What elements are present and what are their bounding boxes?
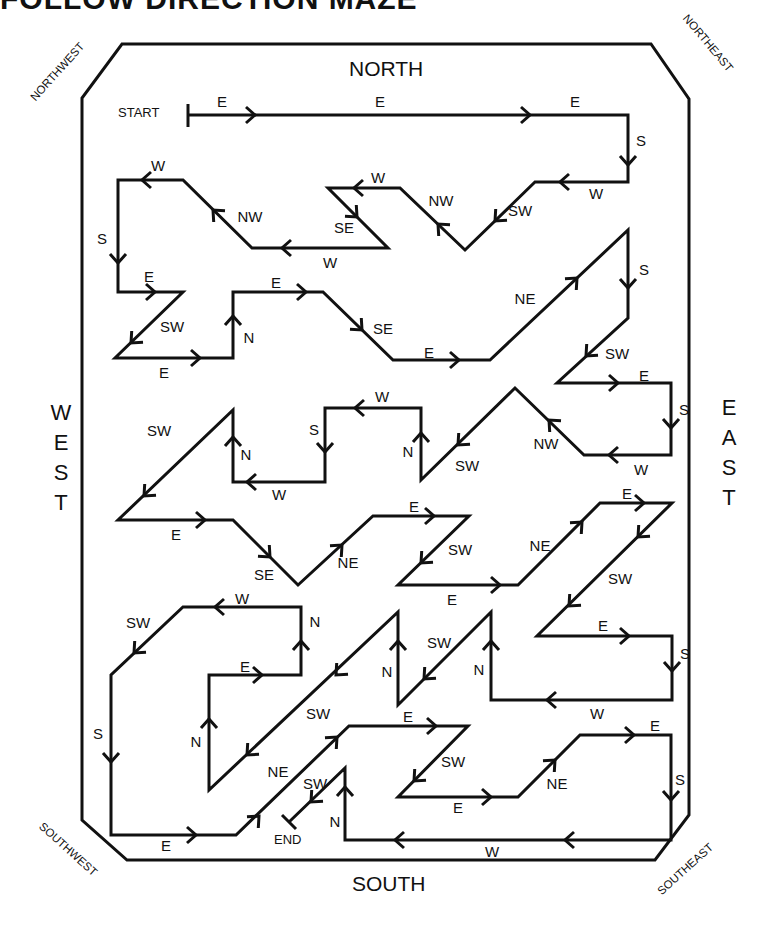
direction-label: NE <box>268 763 289 780</box>
direction-label: N <box>382 663 393 680</box>
direction-label: E <box>375 93 385 110</box>
direction-label: SW <box>160 318 185 335</box>
direction-label: SW <box>126 614 151 631</box>
direction-label: S <box>639 261 649 278</box>
direction-label: N <box>403 443 414 460</box>
compass-west-letter: S <box>48 458 74 488</box>
direction-label: S <box>675 771 685 788</box>
direction-label: N <box>191 733 202 750</box>
direction-label: E <box>453 799 463 816</box>
compass-north: NORTH <box>349 57 423 81</box>
direction-label: E <box>650 717 660 734</box>
direction-label: W <box>375 388 390 405</box>
direction-label: NE <box>338 554 359 571</box>
direction-label: W <box>589 185 604 202</box>
direction-label: SW <box>605 345 630 362</box>
direction-label: SE <box>334 219 354 236</box>
direction-label: E <box>271 274 281 291</box>
maze-route-line <box>111 115 672 840</box>
direction-label: N <box>474 661 485 678</box>
direction-label: SW <box>448 541 473 558</box>
compass-west-letter: T <box>48 488 74 518</box>
direction-label: SW <box>427 634 452 651</box>
direction-label: SW <box>147 422 172 439</box>
direction-label: SW <box>608 570 633 587</box>
compass-west-letter: E <box>48 428 74 458</box>
direction-label: NW <box>429 192 455 209</box>
maze-drawing: EEESWSWNWWSEWNWWSESWENESEENESSWESWNWSWNW… <box>0 0 771 926</box>
direction-arrows <box>103 107 680 848</box>
direction-labels: EEESWSWNWWSEWNWWSESWENESEENESSWESWNWSWNW… <box>93 93 690 860</box>
maze-stage: FOLLOW DIRECTION MAZE EEESWSWNWWSEWNWWSE… <box>0 0 771 926</box>
direction-label: N <box>241 446 252 463</box>
compass-east: E A S T <box>716 393 742 513</box>
direction-label: NE <box>515 290 536 307</box>
direction-label: E <box>598 617 608 634</box>
direction-label: S <box>309 421 319 438</box>
direction-label: N <box>330 813 341 830</box>
compass-west-letter: W <box>48 398 74 428</box>
compass-east-letter: S <box>716 453 742 483</box>
direction-label: W <box>634 461 649 478</box>
direction-label: W <box>590 705 605 722</box>
direction-label: N <box>310 613 321 630</box>
direction-label: E <box>144 268 154 285</box>
maze-path <box>111 115 672 840</box>
start-label: START <box>118 105 159 120</box>
direction-label: E <box>403 708 413 725</box>
direction-label: E <box>424 344 434 361</box>
direction-label: W <box>371 169 386 186</box>
direction-label: W <box>323 254 338 271</box>
direction-label: S <box>97 230 107 247</box>
direction-label: W <box>272 486 287 503</box>
direction-label: NE <box>530 537 551 554</box>
compass-east-letter: E <box>716 393 742 423</box>
direction-label: NW <box>534 435 560 452</box>
direction-label: E <box>161 837 171 854</box>
direction-label: NW <box>238 208 264 225</box>
direction-label: E <box>447 591 457 608</box>
direction-label: E <box>409 498 419 515</box>
direction-label: S <box>679 401 689 418</box>
direction-label: E <box>159 364 169 381</box>
direction-label: W <box>151 157 166 174</box>
direction-label: SW <box>303 775 328 792</box>
direction-label: SW <box>441 753 466 770</box>
direction-label: N <box>244 329 255 346</box>
direction-label: E <box>240 658 250 675</box>
direction-label: SE <box>254 566 274 583</box>
direction-label: S <box>636 132 646 149</box>
compass-east-letter: T <box>716 483 742 513</box>
direction-label: W <box>485 843 500 860</box>
direction-label: SW <box>306 705 331 722</box>
direction-label: SW <box>508 202 533 219</box>
direction-label: SW <box>455 457 480 474</box>
direction-label: E <box>570 93 580 110</box>
maze-border <box>82 44 689 860</box>
arrow-ne-icon <box>247 810 265 828</box>
direction-label: E <box>171 526 181 543</box>
direction-label: E <box>639 367 649 384</box>
end-label: END <box>274 832 301 847</box>
compass-east-letter: A <box>716 423 742 453</box>
direction-label: E <box>217 93 227 110</box>
direction-label: SE <box>373 320 393 337</box>
direction-label: E <box>622 485 632 502</box>
direction-label: S <box>680 645 690 662</box>
direction-label: W <box>235 590 250 607</box>
direction-label: NE <box>547 775 568 792</box>
compass-west: W E S T <box>48 398 74 518</box>
direction-label: S <box>93 725 103 742</box>
compass-south: SOUTH <box>352 872 426 896</box>
